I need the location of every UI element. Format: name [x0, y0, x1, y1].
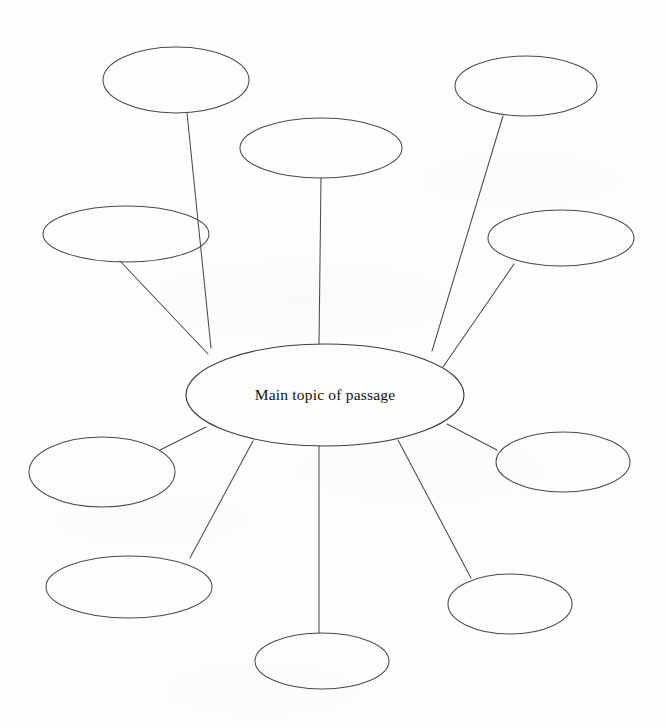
- node-right-middle-outline[interactable]: [496, 432, 630, 492]
- node-bottom-center[interactable]: [255, 633, 389, 689]
- node-top-left-outline[interactable]: [103, 47, 249, 113]
- node-top-left[interactable]: [103, 47, 249, 113]
- connector-left-lower: [190, 441, 253, 558]
- node-right-middle[interactable]: [496, 432, 630, 492]
- node-top-center-outline[interactable]: [240, 118, 402, 178]
- connector-left-upper: [120, 261, 208, 354]
- node-left-middle[interactable]: [29, 437, 175, 507]
- central-node[interactable]: Main topic of passage: [186, 344, 464, 446]
- node-left-upper[interactable]: [43, 206, 209, 262]
- connector-right-middle: [447, 424, 497, 450]
- worksheet-page: Main topic of passage: [0, 0, 668, 726]
- node-right-lower-outline[interactable]: [448, 574, 572, 634]
- node-left-upper-outline[interactable]: [43, 206, 209, 262]
- spider-map-diagram: Main topic of passage: [0, 0, 668, 726]
- connector-right-lower: [398, 440, 471, 578]
- node-left-lower[interactable]: [46, 556, 212, 618]
- node-top-center[interactable]: [240, 118, 402, 178]
- central-node-label: Main topic of passage: [255, 386, 396, 403]
- node-right-upper[interactable]: [488, 210, 634, 266]
- node-left-lower-outline[interactable]: [46, 556, 212, 618]
- node-right-lower[interactable]: [448, 574, 572, 634]
- node-left-middle-outline[interactable]: [29, 437, 175, 507]
- connector-left-middle: [160, 427, 206, 450]
- node-right-upper-outline[interactable]: [488, 210, 634, 266]
- node-top-right-outline[interactable]: [455, 56, 597, 116]
- node-bottom-center-outline[interactable]: [255, 633, 389, 689]
- node-top-right[interactable]: [455, 56, 597, 116]
- connector-top-center: [319, 178, 321, 344]
